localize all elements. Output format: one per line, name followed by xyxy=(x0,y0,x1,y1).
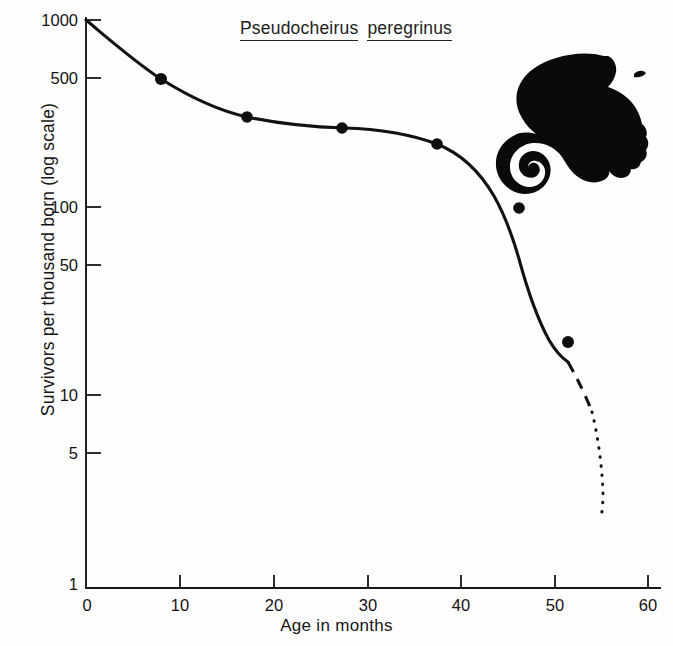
survivorship-curve-dotted xyxy=(592,412,603,519)
data-point-37mo-270 xyxy=(431,138,443,150)
possum-ear xyxy=(634,71,646,77)
chart-plot-area xyxy=(0,0,673,646)
y-axis-ticks xyxy=(86,20,101,453)
possum-eye xyxy=(618,84,626,92)
data-point-46mo-100 xyxy=(513,202,525,214)
ringtail-possum-silhouette xyxy=(496,54,648,194)
data-point-27mo-300 xyxy=(336,122,348,134)
x-axis-ticks xyxy=(180,575,648,588)
data-point-51mo-23 xyxy=(562,336,574,348)
data-point-markers xyxy=(155,73,574,348)
data-point-17mo-340 xyxy=(241,111,253,123)
survivorship-curve-dashed xyxy=(568,362,592,412)
data-point-8mo-500 xyxy=(155,73,167,85)
survivorship-curve-solid xyxy=(86,20,568,362)
chart-figure: Survivors per thousand born (log scale) … xyxy=(0,0,673,646)
possum-body xyxy=(496,54,648,194)
